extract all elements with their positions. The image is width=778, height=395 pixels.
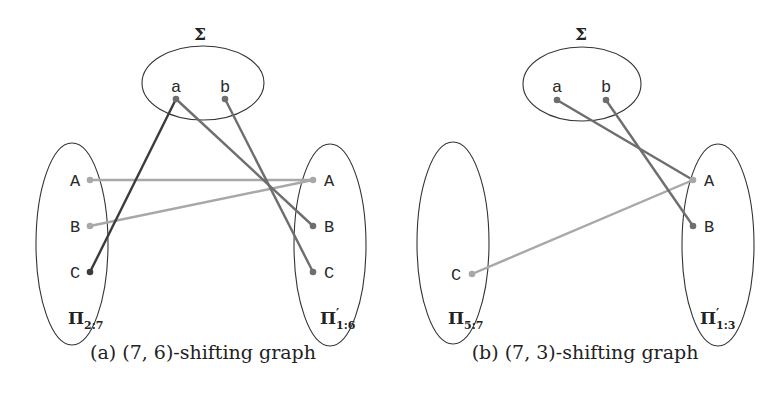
- right-node-C-label: C: [324, 264, 334, 283]
- svg-text:Π: Π: [68, 308, 84, 328]
- edge-sigma-b-to-right-C: [225, 99, 313, 272]
- left-set-label-a: Π 2:7: [68, 308, 103, 332]
- sigma-node-b-dot: [222, 96, 229, 103]
- left-node-A-label: A: [70, 172, 81, 191]
- svg-text:1:3: 1:3: [716, 319, 735, 332]
- right-node-B-dot: [310, 223, 317, 230]
- svg-text:2:7: 2:7: [84, 319, 103, 332]
- left-node-C-label-b: C: [451, 266, 461, 285]
- edge-sigma-b-to-right-B-b: [606, 100, 693, 226]
- left-node-B-dot: [87, 223, 94, 230]
- left-node-B-label: B: [70, 218, 80, 237]
- sigma-set-ellipse-b: [523, 47, 641, 121]
- left-set-label-b: Π 5:7: [448, 308, 483, 332]
- left-node-C-label: C: [70, 264, 80, 283]
- right-node-B-label-b: B: [704, 218, 714, 237]
- right-node-C-dot: [310, 269, 317, 276]
- sigma-label-b: Σ: [575, 24, 587, 44]
- sigma-node-b-label-b: b: [601, 78, 611, 97]
- sigma-node-a-label-b: a: [552, 78, 562, 97]
- right-set-label-a: Π ′ 1:6: [320, 307, 356, 332]
- right-set-label-b: Π ′ 1:3: [700, 307, 735, 332]
- sigma-node-b-label: b: [220, 78, 230, 97]
- sigma-node-a-label: a: [171, 78, 181, 97]
- edge-left-C-to-right-A-b: [472, 180, 693, 274]
- caption-b: (b) (7, 3)-shifting graph: [472, 341, 699, 363]
- left-node-A-dot: [87, 177, 94, 184]
- panel-b: Σ a b C Π 5:7 A B Π ′ 1:3 (b) (7, 3)-shi…: [417, 24, 754, 363]
- right-node-A-dot: [310, 177, 317, 184]
- shifting-graphs-figure: Σ a b A B C Π 2:7 A B C Π ′ 1:6: [0, 0, 778, 395]
- right-node-A-label-b: A: [704, 172, 715, 191]
- sigma-node-b-dot-b: [603, 97, 610, 104]
- svg-text:Π: Π: [448, 308, 464, 328]
- svg-text:Π: Π: [700, 308, 716, 328]
- right-node-A-dot-b: [690, 177, 697, 184]
- left-node-C-dot: [87, 269, 94, 276]
- svg-text:Π: Π: [320, 308, 336, 328]
- sigma-node-a-dot-b: [554, 97, 561, 104]
- right-node-A-label: A: [324, 172, 335, 191]
- right-node-B-label: B: [324, 218, 334, 237]
- caption-a: (a) (7, 6)-shifting graph: [90, 341, 316, 363]
- right-node-B-dot-b: [690, 223, 697, 230]
- edge-sigma-a-to-right-A-b: [557, 100, 693, 180]
- panel-a: Σ a b A B C Π 2:7 A B C Π ′ 1:6: [36, 24, 366, 363]
- left-node-C-dot-b: [469, 271, 476, 278]
- sigma-set-ellipse-a: [142, 46, 264, 120]
- svg-text:1:6: 1:6: [336, 319, 356, 332]
- edge-sigma-a-to-right-B: [176, 99, 313, 226]
- svg-text:5:7: 5:7: [464, 319, 483, 332]
- edge-sigma-a-to-left-C: [90, 99, 176, 272]
- sigma-node-a-dot: [173, 96, 180, 103]
- sigma-label-a: Σ: [194, 24, 206, 44]
